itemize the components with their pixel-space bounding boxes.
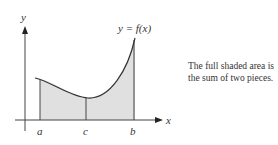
caption-line-2: the sum of two pieces. (188, 72, 274, 84)
tick-label-a: a (37, 125, 43, 137)
caption: The full shaded area is the sum of two p… (188, 60, 274, 84)
y-axis-arrow-icon (22, 26, 28, 34)
caption-line-1: The full shaded area is (188, 60, 274, 72)
curve-label: y = f(x) (117, 22, 151, 35)
tick-label-b: b (130, 125, 136, 137)
x-axis-label: x (165, 114, 171, 126)
shaded-area (40, 38, 135, 120)
x-axis-arrow-icon (155, 117, 163, 123)
y-axis-label: y (20, 11, 26, 23)
tick-label-c: c (83, 125, 88, 137)
